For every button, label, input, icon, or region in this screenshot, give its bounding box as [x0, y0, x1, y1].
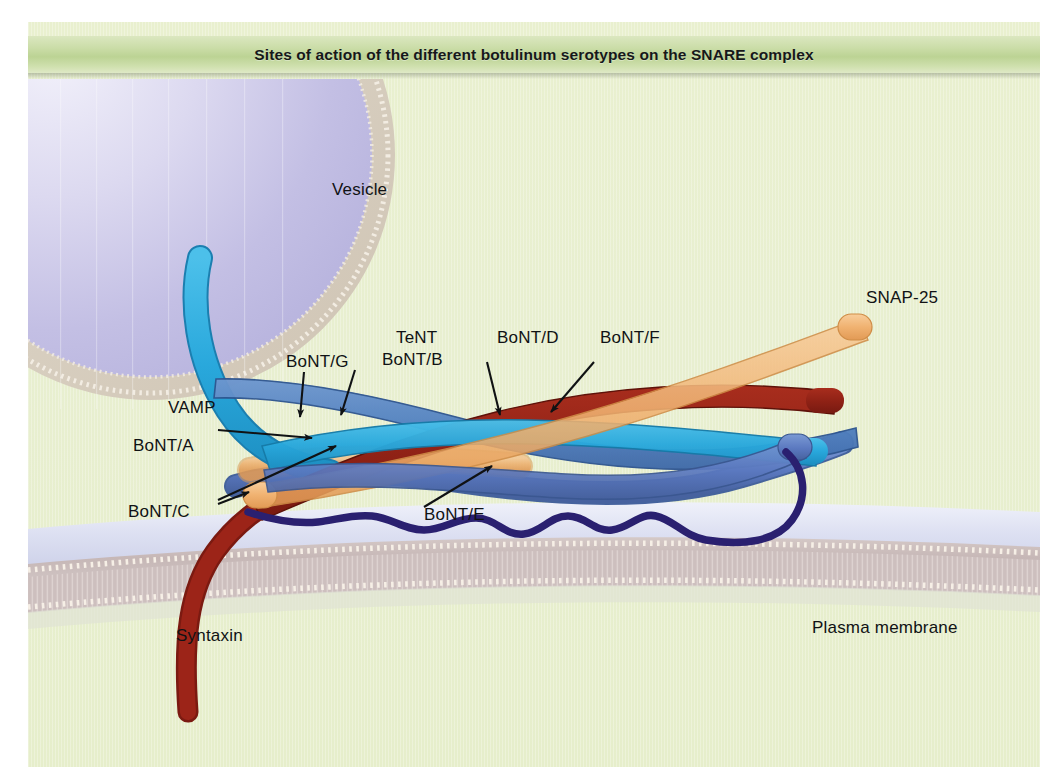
label-bont-b: BoNT/B — [382, 350, 443, 370]
label-syntaxin: Syntaxin — [176, 626, 243, 646]
label-tent: TeNT — [396, 328, 437, 348]
label-bont-e: BoNT/E — [424, 505, 485, 525]
figure-root: Sites of action of the different botulin… — [0, 0, 1040, 767]
label-bont-g: BoNT/G — [286, 352, 349, 372]
label-bont-f: BoNT/F — [600, 328, 660, 348]
diagram-canvas — [0, 0, 1040, 767]
label-bont-c: BoNT/C — [128, 502, 190, 522]
arrow-bont-d — [487, 362, 500, 415]
label-snap25: SNAP-25 — [866, 288, 938, 308]
label-vesicle: Vesicle — [332, 180, 387, 200]
label-bont-a: BoNT/A — [133, 436, 194, 456]
snap25-orange-cap — [838, 314, 872, 340]
label-bont-d: BoNT/D — [497, 328, 559, 348]
label-plasma-membrane: Plasma membrane — [812, 618, 958, 638]
syntaxin-ribbon-cap — [806, 388, 844, 413]
label-vamp: VAMP — [168, 398, 216, 418]
